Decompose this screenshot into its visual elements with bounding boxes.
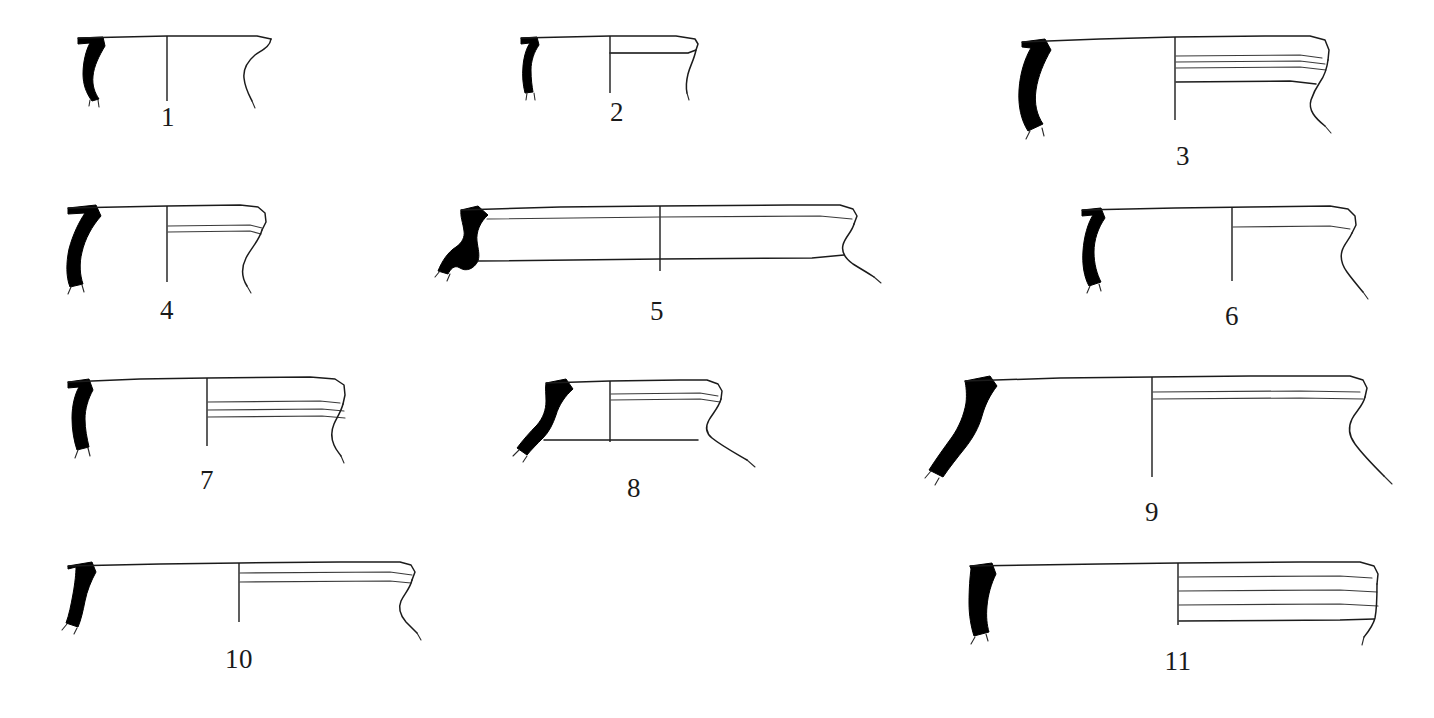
figure-1-drawing <box>78 36 271 108</box>
figure-label-8: 8 <box>627 475 641 502</box>
figure-label-7: 7 <box>200 467 214 494</box>
figure-label-4: 4 <box>160 297 174 324</box>
figure-label-9: 9 <box>1145 499 1159 526</box>
figure-label-3: 3 <box>1176 143 1190 170</box>
figure-label-11: 11 <box>1165 648 1192 675</box>
figure-7-drawing <box>68 377 345 463</box>
figure-label-5: 5 <box>650 298 664 325</box>
pottery-profile-plate: 1 2 3 4 5 6 7 8 9 10 11 <box>0 0 1434 718</box>
figure-6-drawing <box>1082 206 1368 299</box>
figure-label-2: 2 <box>610 99 624 126</box>
figure-label-6: 6 <box>1225 303 1239 330</box>
figure-2-drawing <box>521 36 698 100</box>
figure-5-drawing <box>435 205 881 283</box>
figure-3-drawing <box>1019 36 1331 139</box>
figure-11-drawing <box>969 562 1378 645</box>
figure-8-drawing <box>513 379 755 467</box>
profile-drawings-canvas <box>0 0 1434 718</box>
figure-4-drawing <box>67 205 266 294</box>
figure-9-drawing <box>925 376 1392 485</box>
figure-label-1: 1 <box>161 104 175 131</box>
figure-10-drawing <box>62 562 421 640</box>
figure-label-10: 10 <box>225 646 253 673</box>
